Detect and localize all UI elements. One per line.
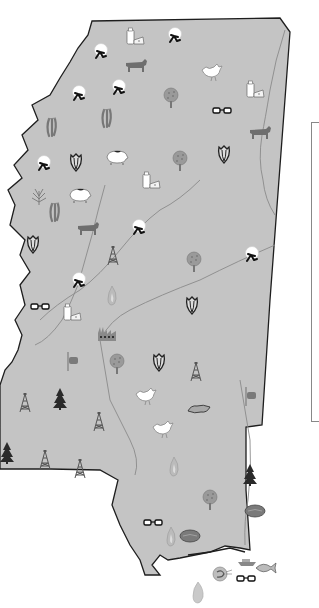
state-outline bbox=[0, 18, 290, 575]
pecan-icon bbox=[245, 505, 265, 517]
cotton-icon bbox=[113, 80, 126, 95]
ship-icon bbox=[238, 559, 256, 566]
cotton-icon bbox=[95, 44, 108, 59]
cotton-icon bbox=[73, 273, 86, 288]
fish-icon bbox=[256, 563, 276, 573]
legend-box bbox=[311, 122, 319, 422]
cotton-icon bbox=[38, 156, 51, 171]
oyster-icon bbox=[193, 582, 203, 603]
pecan-icon bbox=[180, 530, 200, 542]
cotton-icon bbox=[169, 28, 182, 43]
shrimp-icon bbox=[213, 567, 232, 581]
cotton-icon bbox=[133, 220, 146, 235]
glasses-icon bbox=[237, 576, 255, 581]
mississippi-map bbox=[0, 0, 319, 608]
cotton-icon bbox=[73, 86, 86, 101]
cotton-icon bbox=[246, 247, 259, 262]
